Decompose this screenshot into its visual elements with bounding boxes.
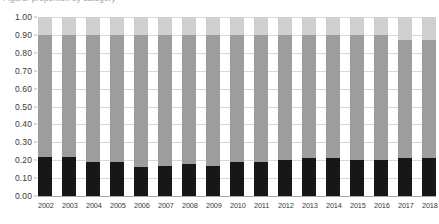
- bar-segment-bottom: [158, 166, 172, 196]
- bar-segment-middle: [158, 35, 172, 166]
- y-axis-tick-label: 0.60: [15, 84, 32, 94]
- y-axis-tick-mark: [34, 17, 37, 18]
- bar-segment-top: [134, 17, 148, 35]
- bar-segment-top: [230, 17, 244, 35]
- y-axis-tick-mark: [34, 88, 37, 89]
- bar-column[interactable]: [278, 17, 292, 196]
- y-axis-tick-mark: [34, 70, 37, 71]
- bar-segment-bottom: [254, 162, 268, 196]
- x-axis-tick-label: 2016: [374, 198, 388, 210]
- x-axis-tick-label: 2011: [254, 198, 268, 210]
- bar-column[interactable]: [86, 17, 100, 196]
- y-axis-tick-label: 0.10: [15, 173, 32, 183]
- x-axis-tick-label: 2013: [302, 198, 316, 210]
- bar-segment-bottom: [134, 167, 148, 196]
- bar-segment-bottom: [230, 162, 244, 196]
- bar-column[interactable]: [206, 17, 220, 196]
- x-axis-tick-label: 2008: [182, 198, 196, 210]
- y-axis-tick-mark: [34, 196, 37, 197]
- bar-segment-middle: [422, 40, 436, 158]
- bar-segment-bottom: [326, 158, 340, 196]
- bar-segment-middle: [350, 35, 364, 160]
- bar-segment-middle: [62, 35, 76, 157]
- bar-column[interactable]: [110, 17, 124, 196]
- y-axis-tick-mark: [34, 124, 37, 125]
- y-axis-tick-mark: [34, 160, 37, 161]
- y-axis-tick-label: 1.00: [15, 12, 32, 22]
- bar-segment-middle: [206, 35, 220, 166]
- bar-segment-top: [206, 17, 220, 35]
- bar-segment-bottom: [206, 166, 220, 196]
- x-axis-tick-label: 2009: [206, 198, 220, 210]
- bar-segment-bottom: [62, 157, 76, 196]
- y-axis-tick-label: 0.40: [15, 119, 32, 129]
- bar-column[interactable]: [38, 17, 52, 196]
- x-axis: 2002200320042005200620072008200920102011…: [38, 198, 436, 218]
- y-axis-tick-label: 0.70: [15, 66, 32, 76]
- bar-column[interactable]: [374, 17, 388, 196]
- stacked-bar-chart: Figure: proportion by category 1.000.900…: [0, 0, 439, 224]
- bar-segment-bottom: [374, 160, 388, 196]
- bar-segment-middle: [134, 35, 148, 167]
- bar-column[interactable]: [158, 17, 172, 196]
- y-axis-tick-label: 0.90: [15, 30, 32, 40]
- bar-segment-middle: [110, 35, 124, 162]
- bar-segment-bottom: [38, 157, 52, 196]
- bar-series: [38, 17, 436, 196]
- x-axis-tick-label: 2007: [158, 198, 172, 210]
- bar-segment-bottom: [182, 164, 196, 196]
- bar-column[interactable]: [230, 17, 244, 196]
- bar-column[interactable]: [350, 17, 364, 196]
- bar-segment-bottom: [86, 162, 100, 196]
- bar-segment-top: [182, 17, 196, 35]
- bar-segment-middle: [398, 40, 412, 158]
- bar-column[interactable]: [398, 17, 412, 196]
- bar-column[interactable]: [326, 17, 340, 196]
- bar-segment-middle: [182, 35, 196, 164]
- y-axis-tick-mark: [34, 142, 37, 143]
- x-axis-line: [38, 196, 436, 197]
- bar-segment-bottom: [278, 160, 292, 196]
- bar-segment-bottom: [302, 158, 316, 196]
- bar-segment-bottom: [398, 158, 412, 196]
- bar-column[interactable]: [182, 17, 196, 196]
- x-axis-tick-label: 2004: [86, 198, 100, 210]
- bar-column[interactable]: [134, 17, 148, 196]
- chart-title-strip: Figure: proportion by category: [0, 0, 439, 7]
- bar-column[interactable]: [302, 17, 316, 196]
- x-axis-tick-label: 2002: [38, 198, 52, 210]
- y-axis-tick-mark: [34, 106, 37, 107]
- bar-segment-middle: [374, 35, 388, 160]
- y-axis-tick-label: 0.50: [15, 102, 32, 112]
- bar-segment-top: [374, 17, 388, 35]
- bar-segment-middle: [230, 35, 244, 162]
- bar-segment-bottom: [422, 158, 436, 196]
- bar-segment-middle: [254, 35, 268, 162]
- y-axis-tick-mark: [34, 52, 37, 53]
- x-axis-tick-label: 2015: [350, 198, 364, 210]
- y-axis: 1.000.900.800.700.600.500.400.300.200.10…: [0, 0, 36, 224]
- bar-column[interactable]: [62, 17, 76, 196]
- y-axis-tick-mark: [34, 178, 37, 179]
- bar-segment-top: [62, 17, 76, 35]
- bar-segment-top: [350, 17, 364, 35]
- bar-segment-bottom: [350, 160, 364, 196]
- plot-area: [38, 17, 436, 196]
- y-axis-tick-mark: [34, 34, 37, 35]
- bar-segment-top: [278, 17, 292, 35]
- y-axis-tick-label: 0.80: [15, 48, 32, 58]
- bar-segment-middle: [278, 35, 292, 160]
- y-axis-tick-label: 0.00: [15, 191, 32, 201]
- bar-segment-top: [158, 17, 172, 35]
- bar-segment-middle: [326, 35, 340, 159]
- bar-column[interactable]: [422, 17, 436, 196]
- x-axis-tick-label: 2010: [230, 198, 244, 210]
- x-axis-tick-label: 2012: [278, 198, 292, 210]
- bar-column[interactable]: [254, 17, 268, 196]
- x-axis-tick-label: 2006: [134, 198, 148, 210]
- bar-segment-middle: [38, 35, 52, 157]
- bar-segment-middle: [302, 35, 316, 159]
- bar-segment-top: [422, 17, 436, 40]
- bar-segment-top: [326, 17, 340, 35]
- bar-segment-top: [110, 17, 124, 35]
